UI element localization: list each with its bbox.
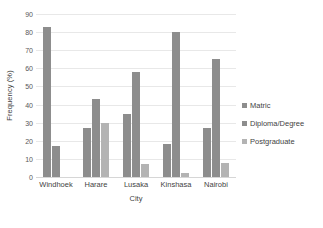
legend-item[interactable]: Matric: [242, 101, 322, 110]
bar-chart: Frequency (%) 0102030405060708090 Windho…: [0, 0, 323, 228]
y-axis-tick-label: 50: [25, 83, 33, 90]
x-axis-title: City: [36, 194, 236, 203]
bar: [172, 32, 180, 177]
legend-swatch-icon: [242, 103, 247, 108]
legend-swatch-icon: [242, 139, 247, 144]
x-axis-tick-label: Nairobi: [196, 180, 236, 189]
legend-label: Matric: [250, 101, 270, 110]
bar: [83, 128, 91, 177]
x-axis-tick-label: Windhoek: [36, 180, 76, 189]
x-axis-tick-label: Kinshasa: [156, 180, 196, 189]
legend-swatch-icon: [242, 121, 247, 126]
y-axis-tick-label: 80: [25, 29, 33, 36]
bar: [203, 128, 211, 177]
bar: [132, 72, 140, 177]
bar-group: [116, 14, 156, 177]
bar-group: [196, 14, 236, 177]
x-axis-tick-label: Lusaka: [116, 180, 156, 189]
bar: [141, 164, 149, 177]
bar: [52, 146, 60, 177]
legend-item[interactable]: Postgraduate: [242, 137, 322, 146]
bar-group: [36, 14, 76, 177]
y-axis-title: Frequency (%): [0, 0, 18, 190]
y-axis-tick-label: 10: [25, 155, 33, 162]
y-axis-tick-label: 20: [25, 137, 33, 144]
bars-layer: [36, 14, 236, 177]
y-axis-tick-label: 40: [25, 101, 33, 108]
bar: [101, 123, 109, 177]
bar: [221, 163, 229, 177]
bar: [163, 144, 171, 177]
bar-group: [76, 14, 116, 177]
plot-area: [36, 14, 236, 177]
bar-group: [156, 14, 196, 177]
y-axis-tick-labels: 0102030405060708090: [18, 14, 34, 177]
legend-label: Diploma/Degree: [250, 119, 304, 128]
y-axis-tick-label: 30: [25, 119, 33, 126]
y-axis-title-text: Frequency (%): [5, 70, 14, 120]
y-axis-tick-label: 90: [25, 11, 33, 18]
bar: [212, 59, 220, 177]
bar: [181, 173, 189, 177]
x-axis-tick-labels: WindhoekHarareLusakaKinshasaNairobi: [36, 180, 236, 189]
y-axis-tick-label: 70: [25, 47, 33, 54]
legend-item[interactable]: Diploma/Degree: [242, 119, 322, 128]
legend-label: Postgraduate: [250, 137, 295, 146]
x-axis-tick-label: Harare: [76, 180, 116, 189]
bar: [92, 99, 100, 177]
legend: MatricDiploma/DegreePostgraduate: [242, 101, 322, 155]
bar: [43, 27, 51, 177]
y-axis-tick-label: 0: [29, 174, 33, 181]
y-axis-tick-label: 60: [25, 65, 33, 72]
bar: [123, 114, 131, 177]
gridline: [36, 177, 236, 178]
